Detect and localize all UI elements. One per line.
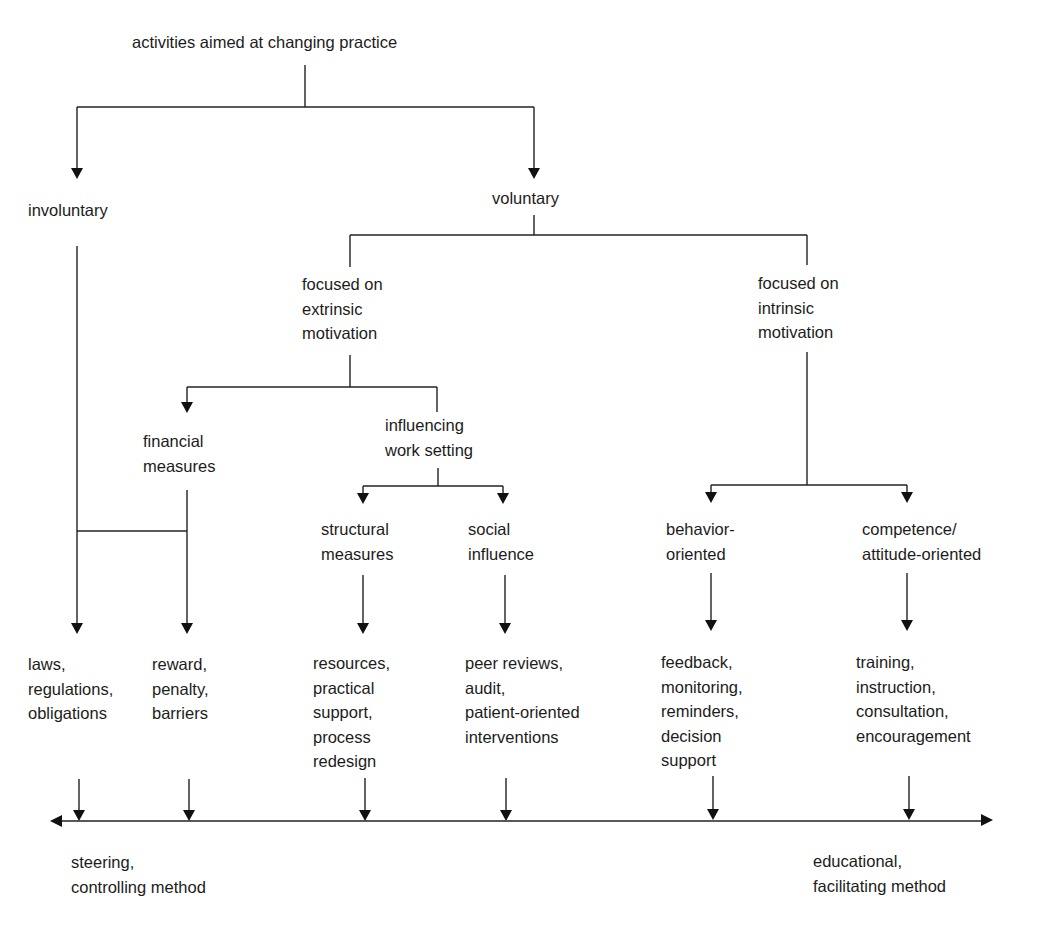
node-social-influence: social influence xyxy=(468,517,534,566)
leaf-training: training, instruction, consultation, enc… xyxy=(856,650,971,748)
leaf-peer-reviews: peer reviews, audit, patient-oriented in… xyxy=(465,651,580,749)
node-involuntary: involuntary xyxy=(28,198,108,223)
node-behavior-oriented: behavior- oriented xyxy=(666,517,735,566)
node-voluntary: voluntary xyxy=(492,186,559,211)
leaf-feedback: feedback, monitoring, reminders, decisio… xyxy=(661,650,743,773)
leaf-resources: resources, practical support, process re… xyxy=(313,651,390,774)
axis-label-educational: educational, facilitating method xyxy=(813,849,946,898)
intervention-taxonomy-diagram: activities aimed at changing practice in… xyxy=(0,0,1039,927)
node-intrinsic-motivation: focused on intrinsic motivation xyxy=(758,271,839,345)
node-competence-attitude-oriented: competence/ attitude-oriented xyxy=(862,517,981,566)
leaf-reward: reward, penalty, barriers xyxy=(152,652,209,726)
axis-label-steering: steering, controlling method xyxy=(71,850,206,899)
node-extrinsic-motivation: focused on extrinsic motivation xyxy=(302,272,383,346)
node-root: activities aimed at changing practice xyxy=(132,30,397,55)
leaf-laws: laws, regulations, obligations xyxy=(28,652,113,726)
node-influencing-work-setting: influencing work setting xyxy=(385,413,473,462)
node-financial-measures: financial measures xyxy=(143,429,215,478)
node-structural-measures: structural measures xyxy=(321,517,393,566)
